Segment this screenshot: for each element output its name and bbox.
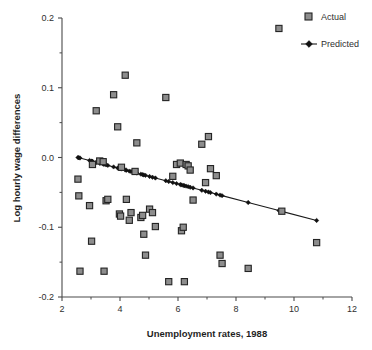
y-tick-label: 0.1 — [41, 83, 54, 93]
actual-point — [100, 159, 106, 165]
predicted-point — [314, 218, 318, 222]
actual-point — [141, 231, 147, 237]
predicted-point — [246, 200, 250, 204]
axes — [62, 18, 352, 297]
actual-point — [86, 203, 92, 209]
legend-actual-label: Actual — [321, 12, 346, 22]
actual-point — [117, 213, 123, 219]
actual-point — [75, 176, 81, 182]
actual-point — [245, 265, 251, 271]
actual-point — [142, 252, 148, 258]
y-tick-label: 0.0 — [41, 153, 54, 163]
x-tick-label: 8 — [233, 304, 238, 314]
actual-point — [77, 268, 83, 274]
y-axis-ticks — [58, 18, 62, 297]
actual-point — [122, 72, 128, 78]
actual-point — [219, 260, 225, 266]
legend-actual-marker — [305, 13, 312, 20]
actual-point — [115, 124, 121, 130]
actual-point — [180, 224, 186, 230]
legend: Actual Predicted — [301, 12, 359, 49]
actual-point — [202, 180, 208, 186]
legend-predicted-marker — [306, 41, 313, 48]
x-tick-label: 4 — [117, 304, 122, 314]
y-axis-tick-labels: -0.2-0.10.00.10.2 — [38, 13, 54, 302]
predicted-point — [174, 181, 178, 185]
actual-point — [181, 279, 187, 285]
predicted-point — [200, 188, 204, 192]
actual-point — [166, 279, 172, 285]
actual-point — [89, 161, 95, 167]
actual-point — [140, 212, 146, 218]
actual-point — [276, 25, 282, 31]
actual-point — [105, 196, 111, 202]
chart-figure: -0.2-0.10.00.10.2 24681012 Unemployment … — [0, 0, 372, 350]
predicted-point — [171, 180, 175, 184]
actual-point — [128, 210, 134, 216]
actual-point — [126, 217, 132, 223]
actual-point — [132, 168, 138, 174]
actual-point — [93, 108, 99, 114]
x-tick-label: 10 — [289, 304, 299, 314]
scatter-plot: -0.2-0.10.00.10.2 24681012 Unemployment … — [0, 0, 372, 350]
actual-point — [187, 167, 193, 173]
actual-point — [152, 223, 158, 229]
actual-point — [111, 92, 117, 98]
legend-predicted-label: Predicted — [321, 39, 359, 49]
actual-point — [314, 240, 320, 246]
y-tick-label: -0.2 — [38, 292, 54, 302]
x-tick-label: 12 — [347, 304, 357, 314]
actual-point — [190, 197, 196, 203]
predicted-point — [214, 192, 218, 196]
y-tick-label: -0.1 — [38, 222, 54, 232]
actual-point — [101, 268, 107, 274]
actual-point — [170, 173, 176, 179]
actual-point — [76, 193, 82, 199]
actual-point — [217, 252, 223, 258]
actual-point — [149, 210, 155, 216]
actual-point — [118, 164, 124, 170]
actual-point — [279, 208, 285, 214]
actual-point — [123, 196, 129, 202]
actual-point — [205, 133, 211, 139]
actual-point — [199, 141, 205, 147]
actual-series — [75, 25, 320, 284]
actual-point — [163, 94, 169, 100]
x-axis-title: Unemployment rates, 1988 — [147, 328, 267, 339]
actual-point — [88, 238, 94, 244]
predicted-point — [111, 165, 115, 169]
y-tick-label: 0.2 — [41, 13, 54, 23]
x-tick-label: 2 — [59, 304, 64, 314]
actual-point — [213, 173, 219, 179]
y-axis-title: Log hourly wage differences — [11, 94, 22, 223]
actual-point — [134, 140, 140, 146]
x-axis-tick-labels: 24681012 — [59, 304, 357, 314]
actual-point — [207, 166, 213, 172]
x-tick-label: 6 — [175, 304, 180, 314]
